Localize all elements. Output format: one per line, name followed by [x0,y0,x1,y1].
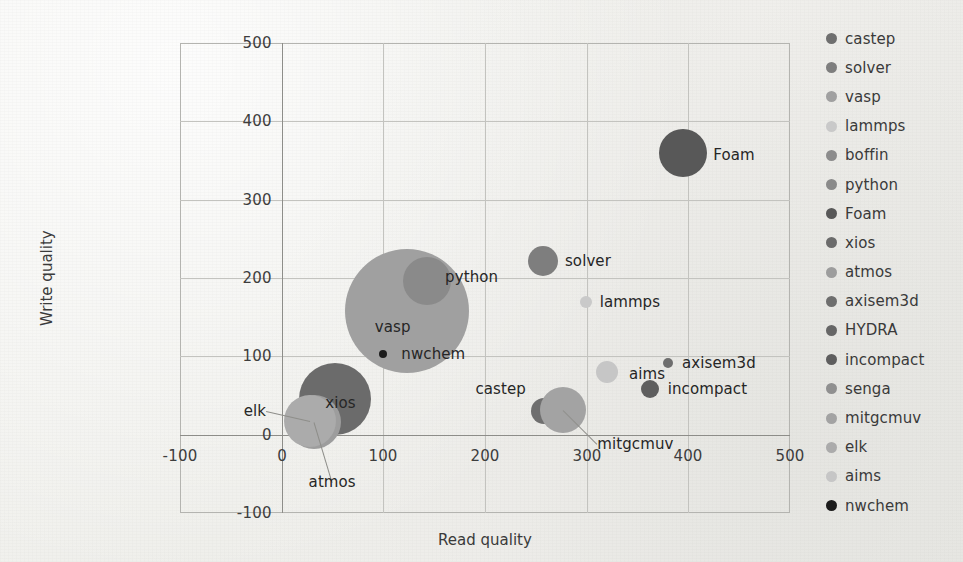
x-tick-label: 200 [470,447,499,465]
bubble-nwchem[interactable] [379,350,387,358]
legend-marker-icon [826,150,837,161]
legend-item-boffin[interactable]: boffin [826,141,963,170]
legend-marker-icon [826,471,837,482]
legend-marker-icon [826,179,837,190]
point-label-solver: solver [565,252,611,270]
legend-label: castep [845,30,896,48]
legend-label: senga [845,380,891,398]
legend-label: python [845,176,898,194]
legend-marker-icon [826,208,837,219]
point-label-mitgcmuv: mitgcmuv [597,435,673,453]
point-label-Foam: Foam [713,146,754,164]
x-tick-label: -100 [163,447,198,465]
bubble-python[interactable] [403,257,451,305]
legend-item-solver[interactable]: solver [826,53,963,82]
x-tick-label: 100 [368,447,397,465]
bubble-chart: -1000100200300400500-1000100200300400500… [0,0,963,562]
y-tick-label: 200 [242,269,271,287]
x-tick-label: 400 [673,447,702,465]
legend-marker-icon [826,325,837,336]
bubble-lammps[interactable] [580,296,592,308]
legend-label: solver [845,59,891,77]
legend-item-xios[interactable]: xios [826,228,963,257]
legend-label: axisem3d [845,292,919,310]
legend-marker-icon [826,33,837,44]
point-label-incompact: incompact [668,380,747,398]
legend-marker-icon [826,383,837,394]
legend-item-atmos[interactable]: atmos [826,258,963,287]
legend-item-HYDRA[interactable]: HYDRA [826,316,963,345]
legend-item-elk[interactable]: elk [826,433,963,462]
legend-label: HYDRA [845,321,898,339]
legend-marker-icon [826,267,837,278]
point-label-vasp: vasp [375,318,411,336]
legend-item-aims[interactable]: aims [826,462,963,491]
y-tick-label: 400 [242,112,271,130]
legend-marker-icon [826,354,837,365]
legend-label: mitgcmuv [845,409,921,427]
legend-label: Foam [845,205,886,223]
legend-item-lammps[interactable]: lammps [826,112,963,141]
bubble-Foam[interactable] [659,129,707,177]
legend-marker-icon [826,91,837,102]
y-axis-title: Write quality [38,230,56,326]
legend-label: elk [845,438,867,456]
y-tick-label: 100 [242,347,271,365]
y-tick-label: 300 [242,191,271,209]
point-label-atmos: atmos [309,473,356,491]
point-label-nwchem: nwchem [401,345,465,363]
legend-item-castep[interactable]: castep [826,24,963,53]
legend-item-Foam[interactable]: Foam [826,199,963,228]
y-tick-label: -100 [237,504,272,522]
x-axis-title: Read quality [438,531,532,549]
bubble-aims[interactable] [596,361,618,383]
y-axis-line [282,43,283,513]
point-label-xios: xios [325,394,355,412]
legend-item-incompact[interactable]: incompact [826,345,963,374]
point-label-lammps: lammps [600,293,661,311]
y-tick-label: 500 [242,34,271,52]
legend-marker-icon [826,62,837,73]
legend-marker-icon [826,442,837,453]
point-label-elk: elk [244,402,266,420]
bubble-solver[interactable] [528,246,558,276]
point-label-aims: aims [629,365,665,383]
legend-label: nwchem [845,497,909,515]
legend-marker-icon [826,121,837,132]
x-tick-label: 0 [277,447,287,465]
legend-item-python[interactable]: python [826,170,963,199]
legend-item-mitgcmuv[interactable]: mitgcmuv [826,403,963,432]
legend-item-axisem3d[interactable]: axisem3d [826,287,963,316]
point-label-castep: castep [475,380,526,398]
legend-label: aims [845,467,881,485]
legend: castepsolvervasplammpsboffinpythonFoamxi… [826,24,963,520]
legend-marker-icon [826,413,837,424]
legend-label: lammps [845,117,906,135]
legend-label: incompact [845,351,924,369]
point-label-python: python [445,268,498,286]
legend-label: xios [845,234,875,252]
legend-item-nwchem[interactable]: nwchem [826,491,963,520]
legend-marker-icon [826,500,837,511]
x-tick-label: 500 [775,447,804,465]
legend-label: vasp [845,88,881,106]
legend-item-vasp[interactable]: vasp [826,82,963,111]
legend-marker-icon [826,296,837,307]
legend-marker-icon [826,237,837,248]
y-tick-label: 0 [262,426,272,444]
point-label-axisem3d: axisem3d [682,354,756,372]
legend-label: atmos [845,263,892,281]
legend-item-senga[interactable]: senga [826,374,963,403]
legend-label: boffin [845,146,889,164]
